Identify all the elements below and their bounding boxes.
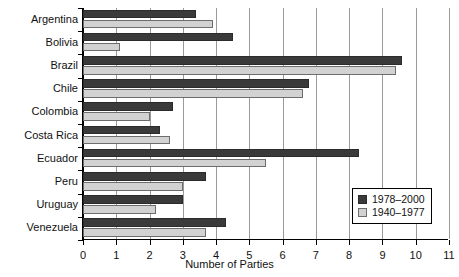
bar-early (83, 182, 183, 191)
y-axis-tick (78, 170, 83, 171)
bar-recent (83, 195, 183, 204)
bar-early (83, 136, 170, 145)
y-axis-category-label: Brazil (50, 59, 78, 71)
x-gridline (449, 8, 450, 239)
bar-recent (83, 102, 173, 111)
bar-group (83, 147, 448, 170)
x-axis-title: Number of Parties (0, 258, 459, 270)
x-axis-tick (416, 240, 417, 245)
y-axis-tick (78, 101, 83, 102)
y-axis-tick (78, 78, 83, 79)
bar-group (83, 78, 448, 101)
legend-swatch-early (358, 208, 367, 217)
legend-label-early: 1940–1977 (372, 207, 425, 218)
bar-group (83, 54, 448, 77)
bar-early (83, 89, 303, 98)
y-axis-category-label: Bolivia (46, 36, 78, 48)
bar-recent (83, 33, 233, 42)
x-axis-tick (349, 240, 350, 245)
bar-group (83, 8, 448, 31)
y-axis-category-label: Costa Rica (24, 129, 78, 141)
bar-early (83, 228, 206, 237)
y-axis-category-label: Chile (53, 82, 78, 94)
bar-group (83, 124, 448, 147)
bar-recent (83, 149, 359, 158)
bar-recent (83, 56, 402, 65)
bar-early (83, 159, 266, 168)
x-axis-tick (183, 240, 184, 245)
bar-group (83, 31, 448, 54)
bar-early (83, 205, 156, 214)
bar-early (83, 43, 120, 52)
y-axis-tick (78, 194, 83, 195)
y-axis-category-label: Colombia (32, 105, 78, 117)
legend-item-early: 1940–1977 (358, 206, 425, 219)
y-axis-tick (78, 217, 83, 218)
legend-label-recent: 1978–2000 (372, 194, 425, 205)
bar-chart: 01234567891011 Number of Parties 1978–20… (0, 0, 459, 277)
bar-recent (83, 172, 206, 181)
y-axis-tick (78, 31, 83, 32)
bar-recent (83, 10, 196, 19)
x-axis-tick (316, 240, 317, 245)
legend-item-recent: 1978–2000 (358, 193, 425, 206)
x-axis-tick (449, 240, 450, 245)
legend-swatch-recent (358, 195, 367, 204)
y-axis-tick (78, 124, 83, 125)
y-axis-tick (78, 240, 83, 241)
bar-early (83, 20, 213, 29)
bar-recent (83, 218, 226, 227)
x-axis-tick (83, 240, 84, 245)
y-axis-tick (78, 54, 83, 55)
bar-recent (83, 79, 309, 88)
bar-early (83, 112, 150, 121)
chart-legend: 1978–2000 1940–1977 (352, 188, 432, 224)
y-axis-tick (78, 8, 83, 9)
bar-recent (83, 126, 160, 135)
x-axis-tick (249, 240, 250, 245)
x-axis-tick (150, 240, 151, 245)
y-axis-category-label: Peru (55, 175, 78, 187)
bar-early (83, 66, 396, 75)
x-axis-tick (283, 240, 284, 245)
y-axis-category-label: Argentina (31, 13, 78, 25)
y-axis-category-label: Venezuela (27, 221, 78, 233)
bar-group (83, 101, 448, 124)
y-axis-tick (78, 147, 83, 148)
y-axis-category-label: Uruguay (36, 198, 78, 210)
x-axis-tick (382, 240, 383, 245)
x-axis-tick (216, 240, 217, 245)
y-axis-category-label: Ecuador (37, 152, 78, 164)
x-axis-tick (116, 240, 117, 245)
